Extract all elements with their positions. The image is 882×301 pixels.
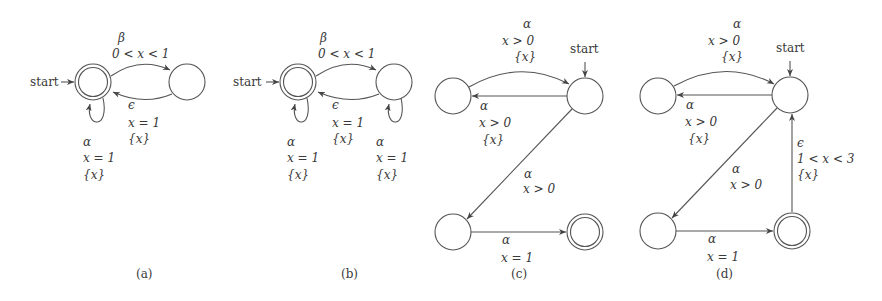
timed-automata-figure: start β 0 < x < 1 ϵ x = 1 {x} α x = 1 {x… bbox=[0, 0, 882, 301]
caption: (a) bbox=[136, 267, 153, 281]
diagram-b: start β 0 < x < 1 ϵ x = 1 {x} α x = 1 {x… bbox=[233, 31, 412, 281]
state bbox=[435, 214, 471, 250]
state-accepting-inner bbox=[79, 68, 108, 97]
svg-text:x = 1: x = 1 bbox=[376, 151, 408, 165]
svg-text:α: α bbox=[523, 17, 531, 31]
state-accepting-inner bbox=[571, 218, 600, 247]
svg-text:x = 1: x = 1 bbox=[501, 251, 533, 265]
svg-text:α: α bbox=[83, 135, 91, 149]
svg-text:α: α bbox=[376, 135, 384, 149]
svg-text:α: α bbox=[732, 162, 740, 176]
state bbox=[640, 78, 676, 114]
state bbox=[169, 64, 205, 100]
svg-text:x = 1: x = 1 bbox=[332, 116, 364, 130]
svg-text:{x}: {x} bbox=[376, 168, 398, 182]
svg-text:{x}: {x} bbox=[128, 132, 150, 146]
diagram-a: start β 0 < x < 1 ϵ x = 1 {x} α x = 1 {x… bbox=[30, 31, 205, 281]
svg-text:α: α bbox=[708, 232, 716, 246]
state-accepting-inner bbox=[778, 217, 807, 246]
state bbox=[376, 64, 412, 100]
state bbox=[640, 213, 676, 249]
edge-beta bbox=[111, 64, 170, 76]
svg-text:1 < x < 3: 1 < x < 3 bbox=[797, 152, 855, 166]
state bbox=[435, 78, 471, 114]
edge-self-loop bbox=[294, 98, 308, 122]
svg-text:{x}: {x} bbox=[514, 50, 536, 64]
svg-text:{x}: {x} bbox=[83, 168, 105, 182]
svg-text:0 < x < 1: 0 < x < 1 bbox=[112, 47, 169, 61]
edge-beta bbox=[316, 64, 376, 76]
svg-text:α: α bbox=[502, 233, 510, 247]
svg-text:x = 1: x = 1 bbox=[707, 250, 739, 264]
start-label: start bbox=[570, 42, 599, 56]
svg-text:x > 0: x > 0 bbox=[730, 178, 762, 192]
edge-epsilon bbox=[318, 92, 379, 100]
caption: (d) bbox=[716, 267, 733, 281]
svg-text:{x}: {x} bbox=[332, 132, 354, 146]
edge-self-loop bbox=[89, 98, 104, 122]
svg-text:x > 0: x > 0 bbox=[708, 34, 740, 48]
svg-text:x = 1: x = 1 bbox=[128, 116, 160, 130]
svg-text:x > 0: x > 0 bbox=[479, 116, 511, 130]
svg-text:ϵ: ϵ bbox=[332, 98, 339, 112]
svg-text:x > 0: x > 0 bbox=[523, 182, 555, 196]
svg-text:α: α bbox=[686, 98, 694, 112]
svg-text:{x}: {x} bbox=[721, 50, 743, 64]
state-initial bbox=[567, 78, 603, 114]
start-label: start bbox=[30, 75, 59, 89]
start-label: start bbox=[776, 41, 805, 55]
svg-text:α: α bbox=[524, 167, 532, 181]
svg-text:α: α bbox=[733, 17, 741, 31]
svg-text:x = 1: x = 1 bbox=[287, 151, 319, 165]
svg-text:x = 1: x = 1 bbox=[83, 151, 115, 165]
caption: (b) bbox=[341, 267, 358, 281]
svg-text:ϵ: ϵ bbox=[128, 98, 135, 112]
svg-text:{x}: {x} bbox=[482, 133, 504, 147]
diagram-c: start α x > 0 {x} α x > 0 {x} α x > 0 α … bbox=[435, 17, 603, 281]
svg-text:x > 0: x > 0 bbox=[502, 34, 534, 48]
edge-epsilon bbox=[113, 92, 172, 100]
svg-text:x > 0: x > 0 bbox=[685, 115, 717, 129]
edge-self-loop bbox=[388, 98, 402, 122]
svg-text:{x}: {x} bbox=[688, 132, 710, 146]
diagram-d: start α x > 0 {x} α x > 0 {x} α x > 0 ϵ … bbox=[640, 17, 855, 281]
svg-text:β: β bbox=[117, 31, 125, 45]
svg-text:ϵ: ϵ bbox=[797, 136, 804, 150]
svg-text:{x}: {x} bbox=[797, 168, 819, 182]
edge-upper bbox=[674, 71, 774, 86]
state-accepting-inner bbox=[284, 68, 313, 97]
start-label: start bbox=[233, 75, 262, 89]
svg-text:α: α bbox=[287, 135, 295, 149]
svg-text:0 < x < 1: 0 < x < 1 bbox=[318, 47, 375, 61]
caption: (c) bbox=[511, 267, 527, 281]
edge-upper bbox=[469, 72, 569, 87]
svg-text:β: β bbox=[319, 31, 327, 45]
state-initial bbox=[772, 77, 808, 113]
svg-text:α: α bbox=[480, 99, 488, 113]
svg-text:{x}: {x} bbox=[287, 168, 309, 182]
